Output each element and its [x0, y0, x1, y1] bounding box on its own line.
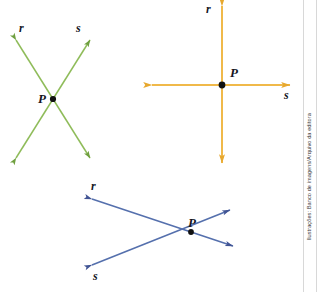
blue-line-r: [92, 199, 233, 246]
orange-label-s: s: [284, 89, 289, 101]
green-label-r: r: [19, 22, 24, 34]
blue-label-s: s: [93, 270, 98, 282]
image-credit-text: Ilustrações: Banco de imagens/Arquivo da…: [307, 114, 313, 241]
blue-label-P: P: [188, 216, 196, 229]
figure-blue-intersecting-lines: r s P: [80, 178, 245, 292]
orange-point-P: [219, 82, 226, 89]
blue-lines-svg: [80, 178, 245, 292]
image-credit: Ilustrações: Banco de imagens/Arquivo da…: [303, 0, 317, 180]
orange-lines-svg: [145, 0, 295, 175]
orange-label-P: P: [230, 66, 238, 79]
green-label-P: P: [38, 92, 46, 105]
figure-green-intersecting-lines: r s P: [0, 0, 150, 175]
figure-orange-intersecting-lines: r s P: [145, 0, 295, 175]
diagram-page: r s P r s P: [0, 0, 317, 292]
blue-label-r: r: [91, 180, 96, 192]
green-label-s: s: [76, 22, 81, 34]
orange-label-r: r: [206, 3, 211, 15]
green-point-P: [50, 96, 56, 102]
